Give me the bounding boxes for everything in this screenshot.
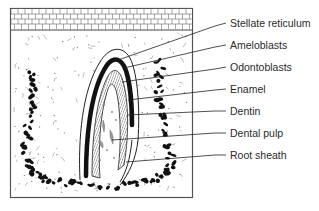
label-odontoblasts: Odontoblasts	[230, 61, 292, 73]
label-ameloblasts: Ameloblasts	[230, 39, 287, 51]
label-dental-pulp: Dental pulp	[230, 127, 283, 139]
label-enamel: Enamel	[230, 83, 266, 95]
tooth-germ-diagram	[0, 0, 319, 211]
label-root-sheath: Root sheath	[230, 149, 287, 161]
label-stellate-reticulum: Stellate reticulum	[230, 17, 311, 29]
oral-epithelium	[11, 9, 192, 30]
label-dentin: Dentin	[230, 105, 260, 117]
